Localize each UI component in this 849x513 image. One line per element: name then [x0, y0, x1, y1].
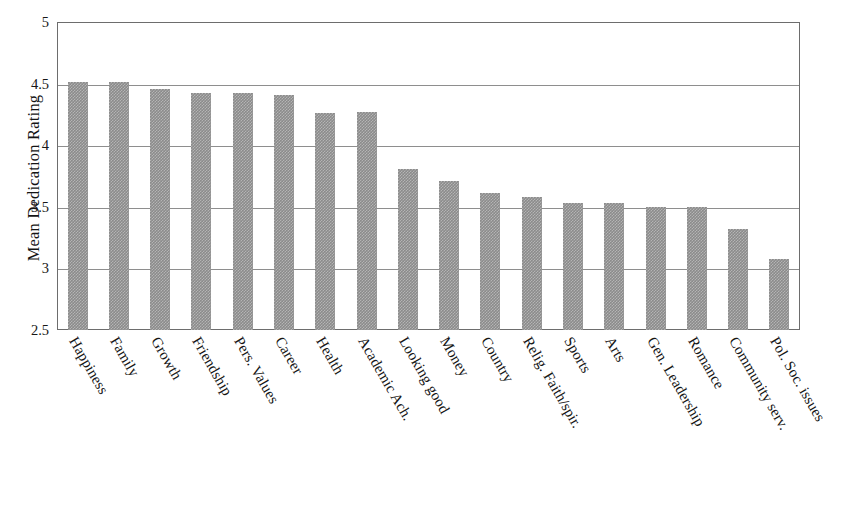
bar: [728, 229, 748, 330]
x-tick-label: Country: [478, 334, 518, 386]
bar-chart-figure: Mean Dedication Rating 2.533.544.55 Happ…: [0, 0, 849, 513]
x-tick-label: Career: [271, 334, 306, 378]
bar: [357, 112, 377, 330]
bar: [191, 93, 211, 330]
bar: [274, 95, 294, 330]
bar: [233, 93, 253, 330]
x-tick-label: Friendship: [189, 334, 236, 399]
x-tick-label: Sports: [560, 334, 594, 376]
bar: [68, 82, 88, 330]
bar: [480, 193, 500, 330]
y-tick-label: 2.5: [8, 322, 49, 339]
bar: [563, 203, 583, 330]
x-tick-label: Health: [313, 334, 348, 378]
x-tick-label: Family: [106, 334, 142, 380]
bar: [150, 89, 170, 330]
bar: [604, 203, 624, 330]
bar: [687, 207, 707, 330]
bar: [522, 197, 542, 330]
x-tick-label: Romance: [684, 334, 727, 392]
x-tick-label: Growth: [147, 334, 185, 383]
y-axis-title: Mean Dedication Rating: [24, 48, 44, 308]
x-tick-label: Money: [436, 334, 472, 380]
x-tick-label: Arts: [602, 334, 630, 365]
x-axis-tick-labels: HappinessFamilyGrowthFriendshipPers. Val…: [57, 330, 800, 510]
x-tick-label: Happiness: [65, 334, 111, 397]
bars-group: [57, 22, 800, 330]
y-tick-label: 5: [8, 14, 49, 31]
bar: [769, 259, 789, 330]
bar: [439, 181, 459, 330]
bar: [398, 169, 418, 330]
bar: [109, 82, 129, 330]
bar: [646, 207, 666, 330]
bar: [315, 113, 335, 330]
